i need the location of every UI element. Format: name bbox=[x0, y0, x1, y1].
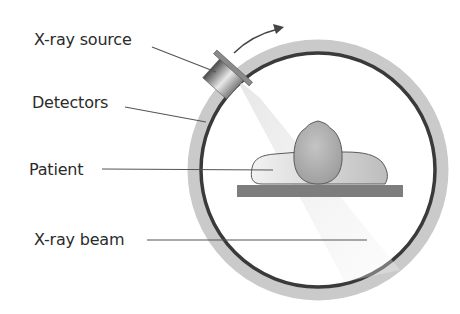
leader-detectors bbox=[125, 107, 206, 122]
label-xray-source: X-ray source bbox=[34, 30, 132, 49]
ct-scanner-diagram: X-ray source Detectors Patient X-ray bea… bbox=[0, 0, 460, 314]
label-patient: Patient bbox=[29, 160, 83, 179]
patient-table bbox=[237, 185, 403, 197]
label-xray-beam: X-ray beam bbox=[34, 230, 124, 249]
leader-xray-source bbox=[152, 47, 216, 72]
label-detectors: Detectors bbox=[32, 93, 108, 112]
